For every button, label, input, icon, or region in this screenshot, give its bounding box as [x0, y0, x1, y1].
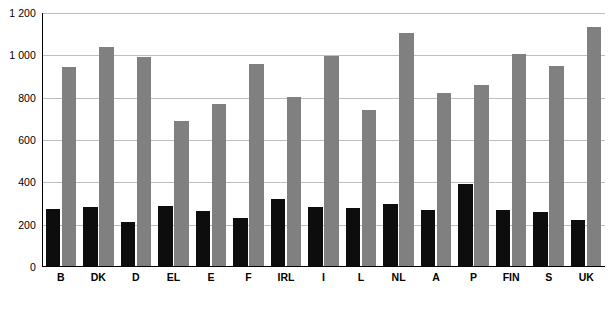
bar — [233, 218, 248, 267]
x-tick-label: I — [305, 271, 343, 283]
y-tick-label: 400 — [18, 176, 36, 188]
bar — [196, 211, 211, 267]
x-tick-label: NL — [380, 271, 418, 283]
x-tick-label: UK — [567, 271, 605, 283]
y-tick-label: 0 — [30, 261, 36, 273]
x-tick-label: IRL — [267, 271, 305, 283]
bar — [46, 209, 61, 267]
y-tick-label: 600 — [18, 134, 36, 146]
bar-group — [121, 13, 152, 267]
x-axis-line — [42, 266, 605, 267]
x-tick-label: S — [530, 271, 568, 283]
bar-group — [346, 13, 377, 267]
bar — [549, 66, 564, 267]
bar-group — [83, 13, 114, 267]
x-tick-label: DK — [80, 271, 118, 283]
bar-group — [271, 13, 302, 267]
bar — [587, 27, 602, 267]
bar-group — [46, 13, 77, 267]
bar — [496, 210, 511, 267]
bar — [271, 199, 286, 267]
bar-group — [308, 13, 339, 267]
bar — [571, 220, 586, 267]
bar — [83, 207, 98, 267]
x-tick-label: B — [42, 271, 80, 283]
x-tick-label: D — [117, 271, 155, 283]
bar — [474, 85, 489, 267]
y-axis: 1 2001 0008006004002000 — [0, 0, 40, 323]
bar-group — [458, 13, 489, 267]
bar — [362, 110, 377, 267]
y-tick-label: 1 200 — [9, 7, 36, 19]
bar — [137, 57, 152, 267]
y-tick-label: 200 — [18, 219, 36, 231]
bar — [399, 33, 414, 267]
x-tick-label: EL — [155, 271, 193, 283]
bar — [62, 67, 77, 267]
bar-group — [496, 13, 527, 267]
bar — [249, 64, 264, 267]
bar — [458, 184, 473, 267]
x-axis: BDKDELEFIRLILNLAPFINSUK — [42, 271, 605, 289]
bar-chart: 1 2001 0008006004002000 BDKDELEFIRLILNLA… — [0, 0, 613, 323]
bar — [437, 93, 452, 267]
bar-group — [233, 13, 264, 267]
bar — [346, 208, 361, 267]
x-tick-label: P — [455, 271, 493, 283]
y-tick-label: 1 000 — [9, 49, 36, 61]
bar-group — [421, 13, 452, 267]
bar — [308, 207, 323, 267]
bar — [174, 121, 189, 267]
x-tick-label: E — [192, 271, 230, 283]
x-tick-label: FIN — [492, 271, 530, 283]
bar-group — [158, 13, 189, 267]
bar — [212, 104, 227, 267]
bar — [121, 222, 136, 268]
bar — [383, 204, 398, 268]
bar-group — [196, 13, 227, 267]
bar — [533, 212, 548, 267]
bars-layer — [42, 13, 605, 267]
bar-group — [383, 13, 414, 267]
bar — [512, 54, 527, 267]
bar-group — [533, 13, 564, 267]
bar — [99, 47, 114, 267]
plot-area — [42, 13, 605, 267]
bar-group — [571, 13, 602, 267]
bar — [324, 56, 339, 267]
y-axis-line — [42, 13, 43, 267]
x-tick-label: L — [342, 271, 380, 283]
bar — [421, 210, 436, 267]
x-tick-label: A — [417, 271, 455, 283]
y-tick-label: 800 — [18, 92, 36, 104]
bar — [287, 97, 302, 267]
x-tick-label: F — [230, 271, 268, 283]
bar — [158, 206, 173, 267]
